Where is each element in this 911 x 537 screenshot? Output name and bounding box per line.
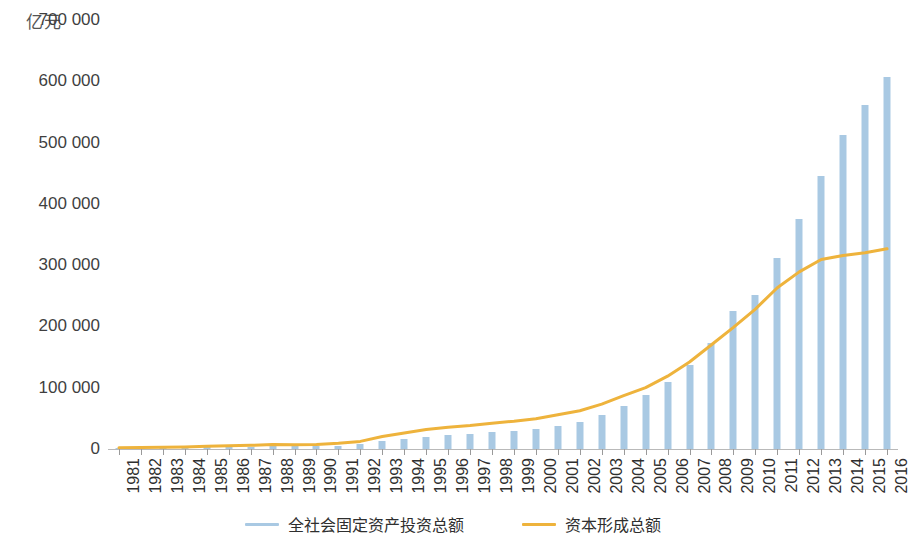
x-axis-tick [733,449,734,455]
x-axis-tick [865,449,866,455]
x-axis-tick [426,449,427,455]
x-axis-tick-label: 1992 [366,458,384,494]
x-axis-tick-label: 1996 [454,458,472,494]
x-axis-tick-label: 1983 [169,458,187,494]
x-axis-tick-label: 1988 [279,458,297,494]
x-axis-tick-label: 2013 [827,458,845,494]
x-axis-tick-label: 2014 [849,458,867,494]
x-axis-tick-label: 2005 [652,458,670,494]
x-axis-tick [119,449,120,455]
legend-label: 资本形成总额 [565,512,661,536]
x-axis-tick [207,449,208,455]
x-axis-tick [185,449,186,455]
x-axis-tick [799,449,800,455]
x-axis-tick-label: 2000 [542,458,560,494]
legend-swatch-icon [522,523,556,526]
x-axis-tick-label: 1985 [213,458,231,494]
x-axis-tick-label: 2002 [586,458,604,494]
x-axis-tick [536,449,537,455]
x-axis-tick-label: 2009 [739,458,757,494]
x-axis-tick-label: 1987 [257,458,275,494]
x-axis-tick [404,449,405,455]
x-axis-tick [843,449,844,455]
x-axis-tick-label: 2011 [783,458,801,492]
legend-swatch-icon [245,523,279,526]
x-axis-tick-label: 2015 [871,458,889,494]
x-axis-tick [163,449,164,455]
x-axis-tick [448,449,449,455]
legend-item[interactable]: 资本形成总额 [522,512,661,536]
x-axis-tick-label: 1998 [498,458,516,494]
x-axis-tick [777,449,778,455]
x-axis-tick-label: 2010 [761,458,779,494]
x-axis-tick [602,449,603,455]
x-axis-tick [668,449,669,455]
x-axis-tick-label: 1994 [410,458,428,494]
x-axis-tick-label: 1984 [191,458,209,494]
x-axis-tick-label: 2007 [696,458,714,494]
x-axis-tick [492,449,493,455]
x-axis-tick [295,449,296,455]
x-axis-tick [470,449,471,455]
x-axis-tick-label: 1999 [520,458,538,494]
x-axis-tick-label: 1986 [235,458,253,494]
x-axis-tick [887,449,888,455]
x-axis-tick [821,449,822,455]
x-axis-tick [624,449,625,455]
x-axis-tick [711,449,712,455]
x-axis-tick [141,449,142,455]
x-axis-tick-label: 1981 [125,458,143,494]
x-axis-tick-label: 2006 [674,458,692,494]
x-axis-tick-label: 2004 [630,458,648,494]
x-axis-tick-label: 2001 [564,458,582,494]
legend-item[interactable]: 全社会固定资产投资总额 [245,512,464,536]
x-axis-tick [338,449,339,455]
x-axis-tick [690,449,691,455]
x-axis-tick-label: 1995 [432,458,450,494]
x-axis-tick-label: 1982 [147,458,165,494]
x-axis-tick [382,449,383,455]
x-axis-tick [273,449,274,455]
x-axis-tick [360,449,361,455]
x-axis-tick-label: 1991 [344,458,362,494]
chart-legend: 全社会固定资产投资总额资本形成总额 [0,512,905,536]
x-axis-tick [514,449,515,455]
x-axis-tick [251,449,252,455]
x-axis-tick [755,449,756,455]
x-axis-tick-label: 2008 [717,458,735,494]
x-axis-tick-label: 1997 [476,458,494,494]
x-axis-tick-label: 1993 [388,458,406,494]
x-axis-tick-label: 1989 [301,458,319,494]
x-axis-tick-label: 2003 [608,458,626,494]
x-axis-tick [229,449,230,455]
legend-label: 全社会固定资产投资总额 [288,512,464,536]
x-axis-tick [580,449,581,455]
x-axis-tick-label: 2016 [893,458,911,494]
x-axis-tick [316,449,317,455]
x-axis-tick [558,449,559,455]
x-axis-tick-label: 2012 [805,458,823,494]
x-axis-tick-label: 1990 [322,458,340,494]
x-axis-tick [646,449,647,455]
